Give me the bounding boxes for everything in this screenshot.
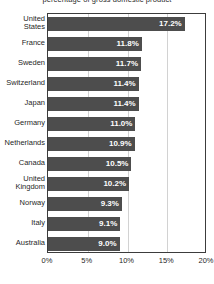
bar-value-label: 11.0% xyxy=(110,120,132,128)
category-label: Germany xyxy=(0,113,45,133)
category-label-line: Italy xyxy=(31,219,45,228)
bar-value-label: 9.0% xyxy=(98,240,116,248)
x-tick-label: 20% xyxy=(198,256,213,265)
x-tick-label: 10% xyxy=(119,256,134,265)
bar-value-label: 9.3% xyxy=(101,200,119,208)
x-axis-tick-labels: 0%5%10%15%20% xyxy=(47,256,206,268)
category-label: Norway xyxy=(0,193,45,213)
category-label: Canada xyxy=(0,153,45,173)
bar-value-label: 17.2% xyxy=(159,20,182,28)
bar: 9.0% xyxy=(48,237,120,251)
category-label-line: France xyxy=(22,39,45,48)
bar-row: 10.2% xyxy=(48,177,205,191)
category-label-line: Netherlands xyxy=(5,139,45,148)
bar-row: 11.4% xyxy=(48,97,205,111)
category-label-line: Norway xyxy=(20,199,45,208)
bar: 10.5% xyxy=(48,157,131,171)
bar: 17.2% xyxy=(48,17,185,31)
bar-value-label: 10.2% xyxy=(103,180,126,188)
bar-row: 11.4% xyxy=(48,77,205,91)
bar: 11.8% xyxy=(48,37,142,51)
bar-row: 17.2% xyxy=(48,17,205,31)
category-label-line: Switzerland xyxy=(6,79,45,88)
category-label: Japan xyxy=(0,93,45,113)
category-label-line: States xyxy=(24,23,45,32)
bar-value-label: 11.4% xyxy=(113,80,135,88)
bar-row: 9.0% xyxy=(48,237,205,251)
category-label: UnitedKingdom xyxy=(0,173,45,193)
bar-row: 10.9% xyxy=(48,137,205,151)
bars-layer: 17.2%11.8%11.7%11.4%11.4%11.0%10.9%10.5%… xyxy=(48,14,205,252)
category-label: Switzerland xyxy=(0,73,45,93)
bar-value-label: 11.4% xyxy=(113,100,135,108)
chart-title: percentage of gross domestic product xyxy=(0,0,214,4)
bar: 10.2% xyxy=(48,177,129,191)
category-label: Netherlands xyxy=(0,133,45,153)
bar-chart: percentage of gross domestic product Uni… xyxy=(0,0,214,284)
bar-value-label: 11.7% xyxy=(116,60,138,68)
bar-value-label: 11.8% xyxy=(117,40,139,48)
category-label-line: Kingdom xyxy=(15,183,45,192)
category-label-line: Germany xyxy=(14,119,45,128)
x-tick-label: 5% xyxy=(81,256,92,265)
bar-row: 11.8% xyxy=(48,37,205,51)
bar: 9.1% xyxy=(48,217,120,231)
category-label-line: Australia xyxy=(16,239,45,248)
bar-row: 11.7% xyxy=(48,57,205,71)
bar-value-label: 10.5% xyxy=(106,160,129,168)
bar-row: 9.3% xyxy=(48,197,205,211)
category-label: France xyxy=(0,33,45,53)
bar-value-label: 9.1% xyxy=(99,220,117,228)
x-tick-label: 0% xyxy=(42,256,53,265)
category-label: Italy xyxy=(0,213,45,233)
bar-value-label: 10.9% xyxy=(109,140,132,148)
bar: 10.9% xyxy=(48,137,135,151)
category-label-line: Japan xyxy=(25,99,45,108)
category-label: Australia xyxy=(0,233,45,253)
bar: 11.7% xyxy=(48,57,141,71)
x-tick-label: 15% xyxy=(159,256,174,265)
bar: 11.0% xyxy=(48,117,135,131)
category-label: Sweden xyxy=(0,53,45,73)
category-label-line: Canada xyxy=(19,159,45,168)
y-axis-category-labels: UnitedStatesFranceSwedenSwitzerlandJapan… xyxy=(0,13,45,253)
bar-row: 9.1% xyxy=(48,217,205,231)
category-label: UnitedStates xyxy=(0,13,45,33)
plot-area: 17.2%11.8%11.7%11.4%11.4%11.0%10.9%10.5%… xyxy=(47,13,206,253)
bar: 11.4% xyxy=(48,77,139,91)
bar: 9.3% xyxy=(48,197,122,211)
bar-row: 10.5% xyxy=(48,157,205,171)
bar-row: 11.0% xyxy=(48,117,205,131)
bar: 11.4% xyxy=(48,97,139,111)
category-label-line: Sweden xyxy=(18,59,45,68)
